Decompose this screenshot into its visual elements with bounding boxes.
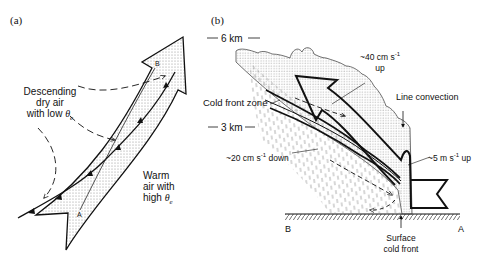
panel-a-tag: (a) [10,15,22,26]
label-40cm-exp: -1 [395,51,400,57]
label-5m-direction: up [459,153,471,163]
theta-subscript: e [170,198,173,206]
panel-a [18,37,186,250]
leader-5m [408,157,430,165]
surface-cold-front-line2: cold front [378,244,424,255]
label-5m-up: ~5 m s-1 up [428,150,471,164]
label-40cm-up: ~40 cm s-1 up [352,49,408,74]
label-5m-value: ~5 m s [428,153,454,163]
label-40cm-direction: up [352,63,408,74]
ground-hatch [285,214,460,220]
label-40cm-value: ~40 cm s [360,52,395,62]
panel-b-tag: (b) [211,15,224,26]
label-warm-line2: air with [143,181,175,192]
label-warm-air: Warm air with high θe [143,170,175,208]
label-warm-text: high [143,192,165,203]
label-20cm-value: ~20 cm s [226,153,261,163]
label-descending-text: with low [27,108,65,119]
label-descending-dry-air: Descending dry air with low θe [14,86,86,124]
cold-front-zone-label: Cold front zone [203,97,267,108]
line-convection-label: Line convection [396,92,459,103]
panel-b [207,38,460,228]
point-b-b: B [285,224,291,235]
point-a-a: A [77,209,82,220]
label-descending-line1: Descending [14,86,86,97]
point-b-a: B [155,58,160,69]
label-warm-line3: high θe [143,192,175,208]
label-descending-line2: dry air [14,97,86,108]
label-descending-line3: with low θe [14,108,86,124]
surface-cold-front-label: Surface cold front [378,233,424,255]
height-3km-label: 3 km [221,122,243,133]
warm-conveyor-arrow [36,37,186,250]
label-20cm-direction: down [266,153,289,163]
point-a-b: A [458,224,464,235]
dry-air-flow-3 [38,128,56,198]
theta-subscript: e [70,114,73,122]
label-warm-line1: Warm [143,170,175,181]
surface-cold-front-line1: Surface [378,233,424,244]
label-20cm-down: ~20 cm s-1 down [226,150,289,164]
height-6km-label: 6 km [221,33,243,44]
